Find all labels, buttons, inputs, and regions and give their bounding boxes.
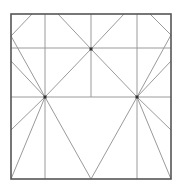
top-left-corner-cut-line [11, 14, 32, 36]
v-right-arm-line [91, 97, 137, 179]
v-left-arm-line [45, 97, 91, 179]
crease-pattern-diagram [0, 0, 181, 186]
left-lower-diagonal-line [11, 97, 45, 130]
right-corner-diagonal-line [137, 97, 171, 179]
left-corner-diagonal-line [11, 97, 45, 179]
left-node [44, 96, 47, 99]
right-node [136, 96, 139, 99]
crease-lines [11, 14, 171, 179]
top-node [90, 48, 93, 51]
right-lower-diagonal-line [137, 97, 171, 130]
top-right-to-top-node-line [91, 14, 124, 49]
top-node-to-right-node-line [91, 49, 137, 97]
top-right-corner-cut-line [150, 14, 171, 35]
top-node-to-left-node-line [45, 49, 91, 97]
top-left-to-top-node-line [58, 14, 91, 49]
